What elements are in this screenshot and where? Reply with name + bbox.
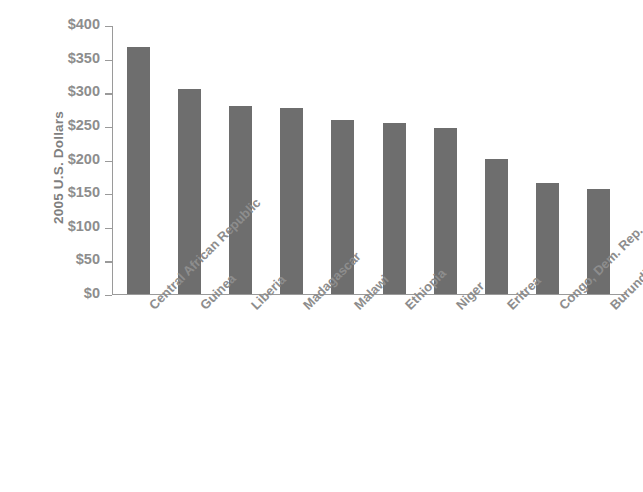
bar	[383, 123, 406, 294]
x-axis-category-label: Liberia	[248, 302, 259, 313]
x-axis-category-label: Burundi	[607, 302, 618, 313]
y-axis-tick-label: $250	[30, 117, 100, 133]
x-axis-category-label: Ethiopia	[402, 302, 413, 313]
x-axis-category-label: Central African Republic	[146, 302, 157, 313]
y-axis-tick-mark	[105, 93, 112, 94]
y-axis-tick-mark	[105, 26, 112, 27]
x-axis-category-label: Congo, Dem. Rep.	[556, 302, 567, 313]
x-axis-category-label: Eritrea	[504, 302, 515, 313]
y-axis-tick-mark	[105, 127, 112, 128]
bar	[536, 183, 559, 294]
y-axis-tick-mark	[105, 60, 112, 61]
y-axis-tick-mark	[105, 261, 112, 262]
y-axis-tick-label: $150	[30, 184, 100, 200]
bar	[127, 47, 150, 294]
y-axis-tick-label: $50	[30, 251, 100, 267]
plot-area: $400$350$300$250$200$150$100$50$0	[112, 26, 625, 295]
x-axis-category-label: Niger	[453, 302, 464, 313]
y-axis-tick-mark	[105, 194, 112, 195]
y-axis-tick-mark	[105, 228, 112, 229]
x-axis-category-label: Madagascar	[300, 302, 311, 313]
y-axis-tick-label: $300	[30, 83, 100, 99]
y-axis-tick-mark	[105, 295, 112, 296]
y-axis-tick-label: $100	[30, 218, 100, 234]
y-axis-tick-mark	[105, 161, 112, 162]
bar	[280, 108, 303, 294]
bar	[485, 159, 508, 294]
bars-layer	[112, 26, 625, 295]
y-axis-tick-label: $350	[30, 50, 100, 66]
x-axis-category-labels: Central African RepublicGuineaLiberiaMad…	[112, 296, 643, 492]
x-axis-category-label: Guinea	[197, 302, 208, 313]
bar-chart: 2005 U.S. Dollars $400$350$300$250$200$1…	[0, 0, 643, 492]
x-axis-category-label: Malawi	[351, 302, 362, 313]
y-axis-tick-label: $400	[30, 16, 100, 32]
y-axis-tick-label: $0	[30, 285, 100, 301]
y-axis-tick-label: $200	[30, 151, 100, 167]
